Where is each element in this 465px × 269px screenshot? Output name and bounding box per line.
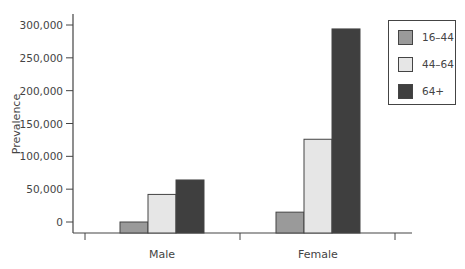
legend-item-44-64: 44–64 — [398, 56, 454, 72]
legend-swatch-icon — [398, 57, 413, 72]
y-tick-label: 0 — [56, 216, 63, 228]
x-category-female: Female — [298, 248, 338, 261]
legend: 16–44 44–64 64+ — [388, 20, 456, 105]
x-category-male: Male — [149, 248, 175, 261]
bars — [120, 29, 360, 233]
bar-male-1 — [148, 194, 176, 233]
legend-label: 44–64 — [422, 58, 454, 70]
y-tick-label: 100,000 — [20, 150, 63, 162]
bar-female-2 — [332, 29, 360, 233]
y-ticks: 050,000100,000150,000200,000250,000300,0… — [20, 19, 73, 228]
y-tick-label: 250,000 — [20, 52, 63, 64]
bar-male-2 — [176, 180, 204, 233]
bar-male-0 — [120, 222, 148, 233]
legend-label: 64+ — [422, 85, 444, 97]
legend-swatch-icon — [398, 30, 413, 45]
bar-female-1 — [304, 139, 332, 233]
y-axis-label: Prevalence — [10, 94, 23, 155]
legend-item-64-plus: 64+ — [398, 83, 444, 99]
legend-label: 16–44 — [422, 31, 454, 43]
y-tick-label: 150,000 — [20, 118, 63, 130]
legend-item-16-44: 16–44 — [398, 29, 454, 45]
legend-swatch-icon — [398, 84, 413, 99]
y-tick-label: 50,000 — [26, 183, 63, 195]
bar-female-0 — [276, 212, 304, 233]
y-tick-label: 200,000 — [20, 85, 63, 97]
y-tick-label: 300,000 — [20, 19, 63, 31]
